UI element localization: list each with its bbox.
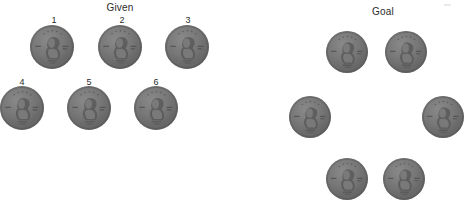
task-canvas: Given	[0, 0, 468, 206]
penny-coin-icon[interactable]	[289, 96, 331, 138]
penny-coin-icon[interactable]	[326, 158, 368, 200]
coin-index-label: 1	[51, 15, 56, 25]
coin-index-label: 6	[153, 77, 158, 87]
penny-coin-icon[interactable]	[30, 25, 74, 69]
coin-index-label: 2	[119, 15, 124, 25]
penny-coin-icon[interactable]	[67, 86, 111, 130]
penny-coin-icon[interactable]	[326, 31, 368, 73]
penny-coin-icon[interactable]	[385, 31, 427, 73]
goal-panel-title: Goal	[372, 6, 394, 18]
coin-index-label: 5	[86, 77, 91, 87]
penny-coin-icon[interactable]	[165, 25, 209, 69]
penny-coin-icon[interactable]	[98, 25, 142, 69]
penny-coin-icon[interactable]	[422, 96, 464, 138]
coin-index-label: 3	[185, 15, 190, 25]
penny-coin-icon[interactable]	[383, 158, 425, 200]
image-artifact	[444, 4, 451, 6]
penny-coin-icon[interactable]	[134, 86, 178, 130]
coin-index-label: 4	[19, 77, 24, 87]
given-panel-title: Given	[106, 2, 133, 14]
penny-coin-icon[interactable]	[0, 86, 44, 130]
